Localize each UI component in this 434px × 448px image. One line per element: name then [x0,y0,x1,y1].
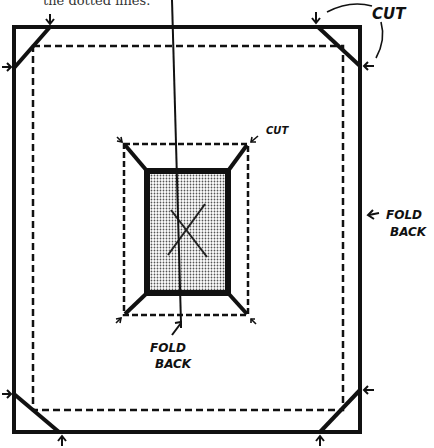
arrow-top-left-top-icon [46,14,54,24]
cut-bracket-curve-2 [376,22,383,58]
center-cut-top-left [125,145,147,171]
arrow-bottom-right-side-icon [364,386,374,394]
center-cut-bottom-right [228,293,247,314]
fold-diagram: CUT CUT FOLD BACK FOLD BACK [0,0,434,448]
center-arrow-bottom-left-icon [116,318,121,323]
center-arrow-top-left-icon [117,137,122,142]
center-cut-bottom-left [125,293,147,314]
fold-back-center-line1: FOLD [150,341,186,355]
center-arrow-bottom-right-icon [251,319,256,324]
fold-back-right-line1: FOLD [386,208,422,222]
fold-back-right-line2: BACK [390,225,428,239]
arrow-fold-back-right-icon [368,210,379,219]
center-arrow-top-right-icon [251,136,258,142]
cut-line-bottom-right [320,390,360,432]
arrow-bottom-left-bottom-icon [58,436,66,446]
cut-line-bottom-left [14,394,59,432]
cut-bracket-curve [327,4,372,12]
arrow-top-right-top-icon [312,12,320,23]
fold-back-center-line2: BACK [155,357,193,371]
arrow-top-right-side-icon [364,62,374,70]
cut-label-center: CUT [266,125,289,136]
center-cut-top-right [228,145,247,171]
cut-label-top-right: CUT [372,5,407,23]
arrow-bottom-left-side-icon [2,390,11,398]
arrow-bottom-right-bottom-icon [316,436,324,446]
arrow-top-left-side-icon [2,63,11,71]
